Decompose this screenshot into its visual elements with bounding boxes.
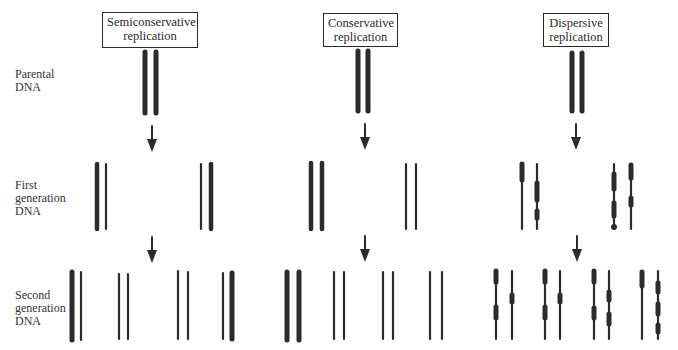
second-gen-conservative-molecule-new-3 [430, 272, 442, 339]
second-gen-dispersive-molecule-3 [594, 271, 609, 339]
second-gen-semiconservative-molecule-4 [223, 273, 232, 339]
second-gen-semiconservative-molecule-2 [119, 274, 128, 339]
second-gen-conservative-molecule-new-2 [383, 272, 393, 339]
arrow-down-icon [147, 237, 157, 263]
replication-diagram [0, 0, 678, 350]
parental-dna-semiconservative [145, 52, 156, 113]
first-gen-semiconservative-molecule-1 [97, 164, 106, 229]
parental-dna-dispersive [572, 53, 582, 111]
second-gen-conservative-molecule-new-1 [334, 272, 344, 339]
first-gen-conservative-molecule-new [406, 164, 416, 229]
arrow-down-icon [571, 124, 581, 150]
second-gen-dispersive-molecule-4 [642, 271, 658, 339]
first-gen-dispersive-molecule-2 [611, 164, 631, 230]
arrow-down-icon [360, 236, 370, 262]
parental-dna-conservative [358, 51, 368, 111]
second-gen-dispersive-molecule-1 [496, 271, 512, 339]
second-gen-semiconservative-molecule-1 [72, 272, 81, 340]
arrow-down-icon [572, 236, 582, 262]
arrow-down-icon [360, 124, 370, 150]
second-gen-dispersive-molecule-2 [545, 271, 560, 339]
first-gen-semiconservative-molecule-2 [201, 164, 211, 229]
second-gen-conservative-molecule-old [287, 272, 299, 340]
second-gen-semiconservative-molecule-3 [178, 271, 188, 339]
arrow-down-icon [147, 126, 157, 152]
first-gen-dispersive-molecule-1 [522, 164, 537, 229]
first-gen-conservative-molecule-old [311, 163, 322, 229]
